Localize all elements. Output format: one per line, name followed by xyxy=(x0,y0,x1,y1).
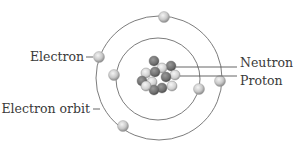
electron-orbit-label: Electron orbit xyxy=(1,101,90,116)
atom-diagram: Electron Electron orbit Neutron Proton xyxy=(0,0,298,151)
nucleus xyxy=(137,56,180,95)
neutron-particle xyxy=(161,72,171,82)
neutron-particle xyxy=(166,61,176,71)
proton-label: Proton xyxy=(240,73,283,88)
proton-particle xyxy=(141,81,151,91)
electron xyxy=(94,52,105,63)
electron xyxy=(109,70,120,81)
electron xyxy=(118,121,129,132)
neutron-label: Neutron xyxy=(240,55,293,70)
proton-particle xyxy=(170,70,180,80)
inner-orbit xyxy=(116,38,200,120)
electron xyxy=(194,84,205,95)
neutron-particle xyxy=(149,56,159,66)
proton-particle xyxy=(167,81,177,91)
neutron-particle xyxy=(150,67,160,77)
electron xyxy=(215,76,226,87)
electron-label: Electron xyxy=(30,49,84,64)
electron xyxy=(159,12,170,23)
